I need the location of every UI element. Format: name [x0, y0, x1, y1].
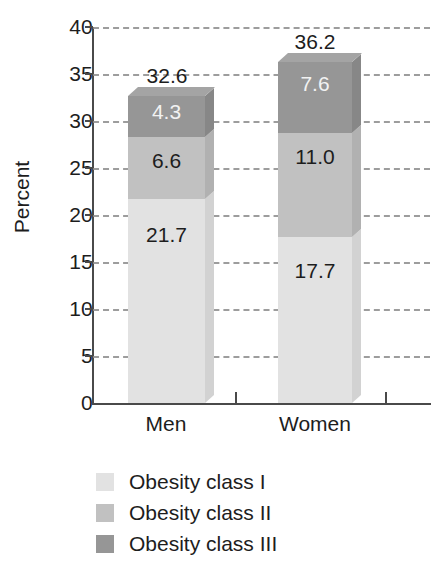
- x-category-label-men: Men: [86, 412, 246, 436]
- bar-women[interactable]: 17.7 11.0 7.6 36.2: [278, 62, 352, 403]
- x-category-label-women: Women: [235, 412, 395, 436]
- bar-men-segment-class3[interactable]: 4.3: [128, 96, 205, 137]
- legend: Obesity class I Obesity class II Obesity…: [96, 466, 277, 559]
- bar-men-segment-class1[interactable]: 21.7: [128, 199, 205, 403]
- bar-women-segment-class1[interactable]: 17.7: [278, 237, 352, 403]
- legend-item-class1[interactable]: Obesity class I: [96, 466, 277, 497]
- segment-top: [278, 53, 362, 62]
- segment-side: [352, 229, 361, 403]
- segment-face: [278, 62, 352, 133]
- segment-face: [128, 96, 205, 137]
- legend-label-class1: Obesity class I: [129, 470, 266, 494]
- segment-face: [278, 133, 352, 237]
- y-axis: 40 35 30 25 20 15 10 5 0: [0, 0, 93, 431]
- segment-face: [128, 199, 205, 403]
- x-tick-mark-2: [385, 392, 387, 404]
- legend-swatch-class2: [96, 504, 114, 522]
- obesity-class-stacked-bar-chart: Percent 40 35 30 25 20 15 10 5 0: [0, 0, 446, 572]
- legend-swatch-class1: [96, 473, 114, 491]
- legend-label-class2: Obesity class II: [129, 501, 271, 525]
- legend-item-class2[interactable]: Obesity class II: [96, 497, 277, 528]
- plot-area: 21.7 6.6 4.3 32.6: [93, 27, 430, 403]
- segment-top: [128, 87, 215, 96]
- gridline-40: [93, 27, 430, 29]
- segment-face: [278, 237, 352, 403]
- x-axis-line: [92, 403, 431, 405]
- x-tick-mark-1: [235, 392, 237, 404]
- total-label-men: 32.6: [97, 64, 237, 88]
- legend-swatch-class3: [96, 535, 114, 553]
- segment-side: [205, 191, 214, 403]
- segment-side: [205, 88, 214, 137]
- bar-men[interactable]: 21.7 6.6 4.3 32.6: [128, 96, 205, 403]
- legend-item-class3[interactable]: Obesity class III: [96, 528, 277, 559]
- segment-side: [352, 125, 361, 237]
- segment-side: [352, 54, 361, 133]
- bar-women-segment-class3[interactable]: 7.6: [278, 62, 352, 133]
- segment-side: [205, 129, 214, 199]
- segment-face: [128, 137, 205, 199]
- bar-men-segment-class2[interactable]: 6.6: [128, 137, 205, 199]
- total-label-women: 36.2: [245, 30, 385, 54]
- legend-label-class3: Obesity class III: [129, 532, 277, 556]
- bar-women-segment-class2[interactable]: 11.0: [278, 133, 352, 237]
